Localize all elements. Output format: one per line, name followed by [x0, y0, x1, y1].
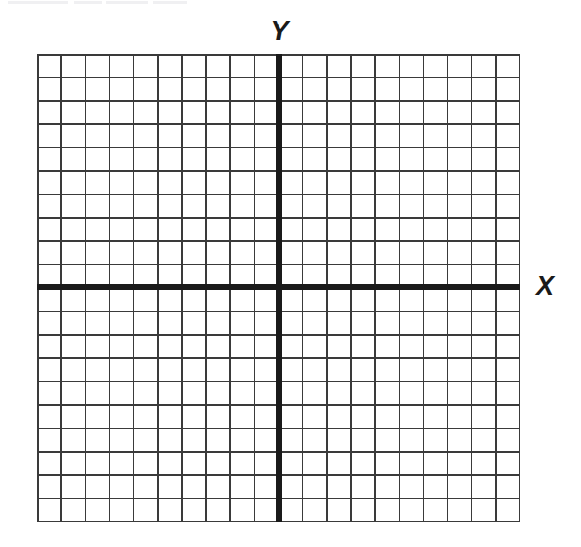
scan-artifact — [106, 1, 148, 4]
plot-area[interactable] — [37, 54, 520, 522]
figure-canvas: Y X — [0, 0, 581, 547]
x-axis-label: X — [530, 273, 560, 300]
scan-artifact — [74, 1, 102, 4]
scan-artifact — [153, 1, 187, 4]
coordinate-grid — [37, 54, 520, 522]
y-axis-label: Y — [0, 18, 559, 45]
scan-artifact — [8, 1, 68, 4]
